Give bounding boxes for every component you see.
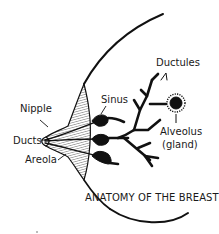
label-gland: (gland) bbox=[162, 139, 198, 150]
breast-anatomy-diagram: Nipple Ducts Areola Sinus Ductules Alveo… bbox=[0, 0, 219, 234]
label-alveolus: Alveolus bbox=[160, 126, 202, 137]
label-ducts: Ducts bbox=[13, 135, 42, 146]
sinuses bbox=[92, 115, 111, 164]
sinus-upper bbox=[92, 115, 108, 126]
areola-pointer bbox=[58, 154, 66, 160]
duct-tree bbox=[108, 74, 166, 166]
label-nipple: Nipple bbox=[20, 103, 52, 114]
sinus-middle bbox=[92, 134, 109, 145]
breast-outline-lower bbox=[110, 209, 188, 222]
areola bbox=[42, 84, 90, 180]
sinus-lower bbox=[92, 151, 111, 164]
label-areola: Areola bbox=[25, 154, 57, 165]
nipple-pointer bbox=[40, 120, 48, 127]
label-sinus: Sinus bbox=[101, 94, 128, 105]
diagram-title: ANATOMY OF THE BREAST bbox=[85, 192, 219, 203]
breast-outline-upper bbox=[84, 14, 163, 84]
alveolus bbox=[170, 97, 182, 109]
label-ductules: Ductules bbox=[156, 57, 200, 68]
ductules-pointer bbox=[161, 73, 167, 80]
sinus-pointer bbox=[101, 106, 106, 114]
